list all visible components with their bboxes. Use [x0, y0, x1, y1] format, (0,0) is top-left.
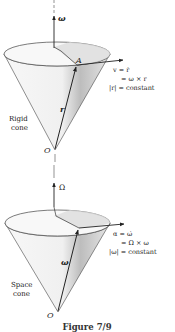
space-cone-label-line1: Space [11, 281, 33, 289]
figure-caption: Figure 7/9 [62, 322, 111, 332]
rigid-cone-body [4, 54, 110, 150]
rigid-cone-label-line2: cone [11, 124, 28, 132]
alpha-equation-line1: α = ω̇ [113, 230, 132, 238]
rigid-cone-label-line1: Rigid [9, 115, 28, 123]
big-omega-axis-label: Ω [59, 183, 65, 192]
rigid-cone-diagram: ω A r O Rigid cone v = ṙ = ω × r |r| = c… [4, 0, 155, 162]
alpha-equation-line2: = Ω × ω [121, 239, 149, 247]
omega-axis-label: ω [58, 13, 66, 23]
figure-canvas: ω A r O Rigid cone v = ṙ = ω × r |r| = c… [0, 0, 175, 332]
alpha-equation-line3: |ω| = constant [109, 248, 157, 256]
apex-o-label-bottom: O [47, 311, 54, 320]
velocity-equation-line2: = ω × r [121, 75, 147, 83]
point-a-label: A [75, 56, 82, 65]
velocity-equation-line3: |r| = constant [109, 84, 155, 92]
velocity-equation-line1: v = ṙ [112, 66, 130, 74]
space-cone-body [5, 223, 110, 312]
space-cone-label-line2: cone [13, 290, 30, 298]
omega-vector-label: ω [61, 257, 69, 267]
apex-o-label-top: O [44, 146, 51, 155]
space-cone-diagram: Ω ω O Space cone α = ω̇ = Ω × ω |ω| = co… [5, 165, 157, 320]
